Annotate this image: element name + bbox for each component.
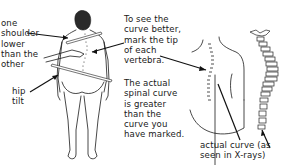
label-mark-vertebra-tip: To see the curve better, mark the tip of… <box>124 14 181 65</box>
xray-skull-base <box>250 30 270 36</box>
back-neck-left <box>192 40 203 52</box>
hip-level-bar <box>51 64 112 82</box>
shoulder-level-bar <box>66 32 102 44</box>
person-right-leg <box>84 92 102 159</box>
marked-vertebra-ticks <box>207 44 214 100</box>
back-neck-right <box>219 37 244 100</box>
marking-hand <box>44 50 84 62</box>
standing-person-figure <box>44 11 112 159</box>
label-hip-tilt: hip tilt <box>12 86 26 107</box>
person-head <box>75 11 91 31</box>
label-actual-curve-greater: The actual spinal curve is greater than … <box>124 78 184 140</box>
person-left-leg <box>64 92 81 159</box>
label-xray-curve: actual curve (as seen in X-rays) <box>200 140 271 161</box>
xray-pointer-line <box>218 84 240 140</box>
label-shoulder-lower: one shoulder lower than the other <box>1 18 39 69</box>
back-right-arm-line <box>231 74 233 98</box>
person-hips <box>62 82 104 94</box>
xray-spine-figure <box>250 30 278 129</box>
